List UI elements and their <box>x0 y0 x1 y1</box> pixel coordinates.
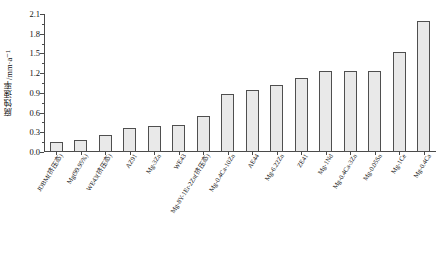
x-tick-label: Mg-0.4Ca <box>412 153 432 180</box>
bar-slot <box>44 14 69 152</box>
bar[interactable] <box>393 52 406 152</box>
bar-slot <box>216 14 241 152</box>
bar-slot <box>191 14 216 152</box>
x-tick-label: Mg-6.22Zn <box>264 153 286 182</box>
y-tick-label: 0.3 <box>29 128 40 137</box>
bar-slot <box>338 14 363 152</box>
bar[interactable] <box>319 71 332 152</box>
bar[interactable] <box>99 135 112 152</box>
bar-slot <box>69 14 94 152</box>
x-tick-label: WE43(挤压态) <box>86 153 114 192</box>
bar[interactable] <box>246 90 259 152</box>
bar-slot <box>93 14 118 152</box>
bar[interactable] <box>123 128 136 152</box>
bar-slot <box>118 14 143 152</box>
bar[interactable] <box>417 21 430 152</box>
x-tick-label: ZE41 <box>296 153 310 169</box>
x-axis-tick-labels: JDBM(挤压态)Mg(99.95%)WE43(挤压态)AZ91Mg-3ZnWE… <box>44 153 436 257</box>
bar-slot <box>289 14 314 152</box>
bar[interactable] <box>148 126 161 152</box>
y-tick-label: 0.0 <box>29 148 40 157</box>
bar-series <box>44 14 436 152</box>
bar-slot <box>167 14 192 152</box>
bar[interactable] <box>270 85 283 152</box>
bar[interactable] <box>344 71 357 152</box>
x-tick-label: Mg-1Ce <box>391 153 409 175</box>
y-tick-label: 2.1 <box>29 10 40 19</box>
bar[interactable] <box>295 78 308 152</box>
y-tick-label: 0.6 <box>29 108 40 117</box>
bar-slot <box>412 14 437 152</box>
x-tick-label: AZ91 <box>125 153 139 170</box>
bar[interactable] <box>197 116 210 152</box>
x-tick-label: Mg-0.4Ca-3Zn <box>332 153 359 190</box>
x-tick-label: AE44 <box>247 153 261 170</box>
x-tick-label: Mg-0.05Sn <box>362 153 384 182</box>
bar-slot <box>314 14 339 152</box>
x-tick-label: Mg-1Nd <box>317 153 335 176</box>
y-axis-tick-labels: 0.00.30.60.91.21.51.82.1 <box>18 0 40 257</box>
bar[interactable] <box>368 71 381 152</box>
y-tick-label: 1.5 <box>29 49 40 58</box>
bar-slot <box>363 14 388 152</box>
x-tick-label: Mg(99.95%) <box>66 153 90 185</box>
bar[interactable] <box>172 125 185 152</box>
y-tick-label: 1.8 <box>29 29 40 38</box>
plot-area <box>44 14 436 152</box>
x-tick-label: WE43 <box>173 153 188 171</box>
corrosion-rate-bar-chart: 腐蚀速率/mm·a⁻¹ 0.00.30.60.91.21.51.82.1 JDB… <box>0 0 443 257</box>
bar-slot <box>240 14 265 152</box>
bar[interactable] <box>221 94 234 152</box>
y-tick-label: 0.9 <box>29 89 40 98</box>
bar-slot <box>265 14 290 152</box>
x-tick-label: JDBM(挤压态) <box>36 153 65 193</box>
bar-slot <box>387 14 412 152</box>
x-tick-label: Mg-3Zn <box>146 153 164 175</box>
y-tick-label: 1.2 <box>29 69 40 78</box>
y-axis-title: 腐蚀速率/mm·a⁻¹ <box>1 28 17 138</box>
x-tick-label: Mg-0.4Ca-10Zn <box>208 153 237 193</box>
bar-slot <box>142 14 167 152</box>
